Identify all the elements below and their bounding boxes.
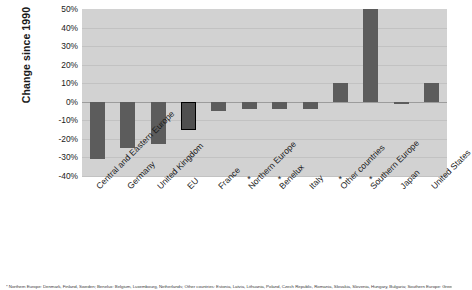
y-tick-label: -30%: [44, 152, 78, 162]
footnote-marker: *: [278, 174, 282, 184]
y-tick-label: -10%: [44, 115, 78, 125]
y-tick-label: 50%: [44, 4, 78, 14]
bar: [363, 9, 378, 102]
bar: [211, 102, 226, 111]
y-tick-label: 40%: [44, 23, 78, 33]
bar: [394, 102, 409, 104]
x-tick-label: EU: [185, 176, 201, 192]
bar: [424, 83, 439, 102]
footnote-marker: *: [369, 174, 373, 184]
y-tick-label: 30%: [44, 41, 78, 51]
y-tick-label: 0%: [44, 97, 78, 107]
gridline: [82, 46, 447, 47]
y-tick-label: 10%: [44, 78, 78, 88]
gridline: [82, 28, 447, 29]
bar: [90, 102, 105, 160]
x-tick-label: Italy: [307, 173, 325, 191]
bar: [303, 102, 318, 109]
footnote-marker: *: [339, 174, 343, 184]
bar: [120, 102, 135, 148]
bar: [181, 102, 196, 130]
chart-footnote: * Northern Europe: Denmark, Finland, Swe…: [6, 284, 452, 289]
gridline: [82, 120, 447, 121]
x-axis-tick-labels: Central and Eastern EuropeGermanyUnited …: [0, 176, 454, 290]
gridline: [82, 65, 447, 66]
bar: [272, 102, 287, 109]
y-tick-label: 20%: [44, 60, 78, 70]
bar: [333, 83, 348, 102]
zero-line: [82, 102, 447, 103]
gridline: [82, 83, 447, 84]
bar: [242, 102, 257, 109]
footnote-marker: *: [247, 174, 251, 184]
y-tick-label: -20%: [44, 134, 78, 144]
